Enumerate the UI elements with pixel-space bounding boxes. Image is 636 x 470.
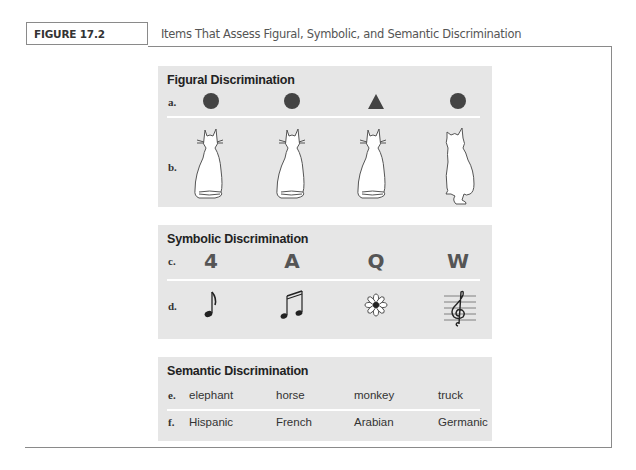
symbol-a: A [284,249,299,273]
figural-discrimination-panel: Figural Discrimination a. b. [158,66,492,207]
row-label-f: f. [168,416,174,428]
panel-title: Symbolic Discrimination [167,232,308,246]
word-cell: horse [276,389,305,401]
symbol-4: 4 [204,249,218,273]
circle-icon [202,92,220,110]
word-cell: French [276,416,312,428]
cat-sitting-back-icon [356,126,390,202]
frame-border-top [148,46,612,47]
word-cell: monkey [354,389,394,401]
cat-sitting-side-icon [442,126,478,206]
word-cell: Hispanic [189,416,233,428]
semantic-discrimination-panel: Semantic Discrimination e. elephant hors… [158,357,492,441]
panel-title: Figural Discrimination [167,73,295,87]
row-label-e: e. [168,389,176,401]
row-label-a: a. [168,96,176,108]
row-separator [167,116,480,118]
word-cell: elephant [189,389,233,401]
frame-border-bottom [25,447,612,448]
panel-title: Semantic Discrimination [167,364,308,378]
row-separator [167,409,480,411]
frame-border-right [611,46,612,448]
circle-icon [283,92,301,110]
word-cell: Arabian [354,416,394,428]
word-cell: truck [438,389,463,401]
figure-caption: Items That Assess Figural, Symbolic, and… [161,27,521,41]
symbolic-discrimination-panel: Symbolic Discrimination c. 4 A Q W d. [158,225,492,339]
circle-icon [449,92,467,110]
row-label-c: c. [168,255,176,267]
cat-sitting-back-icon [193,126,227,202]
treble-clef-staff-icon [442,288,478,328]
figure-number-tab: FIGURE 17.2 [26,22,148,45]
triangle-icon [367,92,385,110]
word-cell: Germanic [438,416,488,428]
figure-number: FIGURE 17.2 [34,28,105,40]
row-label-d: d. [168,300,177,312]
eighth-note-icon [204,289,218,319]
symbol-w: W [447,249,469,273]
row-label-b: b. [168,161,177,173]
row-separator [167,279,480,281]
cat-sitting-back-icon [275,126,309,202]
beamed-sixteenth-notes-icon [280,289,306,321]
symbol-q: Q [367,249,384,273]
flower-icon [364,293,388,317]
